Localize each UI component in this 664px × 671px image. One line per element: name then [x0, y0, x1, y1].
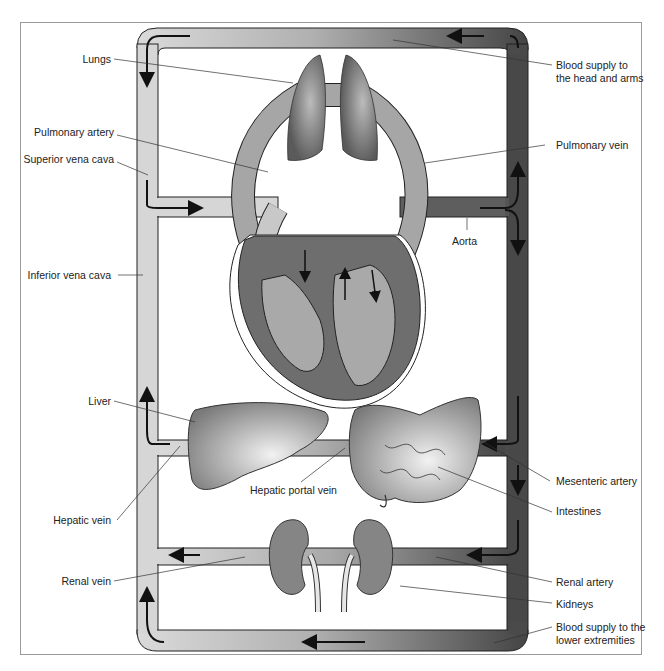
- label-superior-vena-cava: Superior vena cava: [24, 153, 114, 166]
- label-intestines: Intestines: [556, 505, 601, 518]
- kidneys: [269, 520, 392, 612]
- label-pulmonary-vein: Pulmonary vein: [556, 139, 628, 152]
- label-blood-supply-head-arms: Blood supply to the head and arms: [556, 59, 644, 85]
- lungs: [288, 55, 378, 161]
- label-mesenteric-artery: Mesenteric artery: [556, 475, 637, 488]
- label-hepatic-portal-vein: Hepatic portal vein: [250, 484, 337, 497]
- label-kidneys: Kidneys: [556, 598, 593, 611]
- heart: [230, 235, 426, 408]
- label-hepatic-vein: Hepatic vein: [53, 514, 111, 527]
- label-blood-supply-lower: Blood supply to the lower extremities: [556, 621, 645, 647]
- liver: [188, 403, 328, 490]
- label-renal-artery: Renal artery: [556, 576, 613, 589]
- label-renal-vein: Renal vein: [61, 575, 111, 588]
- label-pulmonary-artery: Pulmonary artery: [34, 126, 114, 139]
- intestines: [349, 398, 481, 507]
- label-lungs: Lungs: [82, 53, 111, 66]
- circulation-diagram: [0, 0, 664, 671]
- label-inferior-vena-cava: Inferior vena cava: [28, 269, 111, 282]
- label-liver: Liver: [88, 395, 111, 408]
- label-aorta: Aorta: [452, 235, 477, 248]
